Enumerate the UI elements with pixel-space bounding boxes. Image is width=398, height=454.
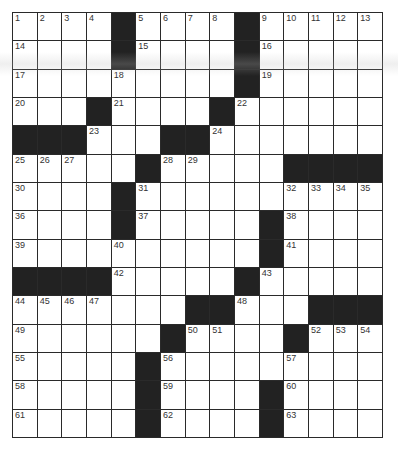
grid-cell[interactable] xyxy=(210,155,234,182)
grid-cell[interactable]: 5 xyxy=(136,13,160,40)
grid-cell[interactable] xyxy=(210,240,234,267)
grid-cell[interactable] xyxy=(186,410,210,437)
grid-cell[interactable] xyxy=(309,353,333,380)
grid-cell[interactable] xyxy=(210,268,234,295)
grid-cell[interactable]: 44 xyxy=(13,296,37,323)
grid-cell[interactable] xyxy=(62,381,86,408)
grid-cell[interactable]: 46 xyxy=(62,296,86,323)
grid-cell[interactable] xyxy=(186,70,210,97)
grid-cell[interactable] xyxy=(38,211,62,238)
grid-cell[interactable] xyxy=(210,353,234,380)
grid-cell[interactable] xyxy=(334,381,358,408)
grid-cell[interactable] xyxy=(334,211,358,238)
grid-cell[interactable] xyxy=(235,155,259,182)
grid-cell[interactable]: 20 xyxy=(13,98,37,125)
grid-cell[interactable]: 45 xyxy=(38,296,62,323)
grid-cell[interactable]: 59 xyxy=(161,381,185,408)
grid-cell[interactable] xyxy=(235,410,259,437)
grid-cell[interactable]: 23 xyxy=(87,126,111,153)
grid-cell[interactable] xyxy=(334,240,358,267)
grid-cell[interactable] xyxy=(186,381,210,408)
grid-cell[interactable]: 41 xyxy=(284,240,308,267)
grid-cell[interactable]: 34 xyxy=(334,183,358,210)
grid-cell[interactable]: 24 xyxy=(210,126,234,153)
grid-cell[interactable] xyxy=(38,325,62,352)
grid-cell[interactable]: 19 xyxy=(260,70,284,97)
grid-cell[interactable] xyxy=(235,126,259,153)
grid-cell[interactable] xyxy=(260,183,284,210)
grid-cell[interactable]: 15 xyxy=(136,41,160,68)
grid-cell[interactable] xyxy=(112,325,136,352)
grid-cell[interactable] xyxy=(87,155,111,182)
grid-cell[interactable] xyxy=(210,70,234,97)
grid-cell[interactable] xyxy=(38,70,62,97)
grid-cell[interactable] xyxy=(260,98,284,125)
grid-cell[interactable] xyxy=(136,126,160,153)
grid-cell[interactable] xyxy=(284,296,308,323)
grid-cell[interactable] xyxy=(62,211,86,238)
grid-cell[interactable] xyxy=(260,126,284,153)
grid-cell[interactable] xyxy=(161,211,185,238)
grid-cell[interactable] xyxy=(87,211,111,238)
grid-cell[interactable] xyxy=(62,98,86,125)
grid-cell[interactable]: 48 xyxy=(235,296,259,323)
grid-cell[interactable] xyxy=(87,240,111,267)
grid-cell[interactable] xyxy=(186,41,210,68)
grid-cell[interactable] xyxy=(136,240,160,267)
grid-cell[interactable] xyxy=(161,296,185,323)
grid-cell[interactable] xyxy=(38,41,62,68)
grid-cell[interactable] xyxy=(161,268,185,295)
grid-cell[interactable] xyxy=(62,410,86,437)
grid-cell[interactable] xyxy=(284,268,308,295)
grid-cell[interactable] xyxy=(210,211,234,238)
grid-cell[interactable] xyxy=(358,381,382,408)
grid-cell[interactable] xyxy=(309,410,333,437)
grid-cell[interactable] xyxy=(334,126,358,153)
grid-cell[interactable]: 52 xyxy=(309,325,333,352)
grid-cell[interactable]: 63 xyxy=(284,410,308,437)
grid-cell[interactable]: 37 xyxy=(136,211,160,238)
grid-cell[interactable]: 58 xyxy=(13,381,37,408)
grid-cell[interactable]: 62 xyxy=(161,410,185,437)
grid-cell[interactable] xyxy=(186,353,210,380)
grid-cell[interactable] xyxy=(62,353,86,380)
grid-cell[interactable]: 3 xyxy=(62,13,86,40)
grid-cell[interactable] xyxy=(136,268,160,295)
grid-cell[interactable] xyxy=(309,70,333,97)
grid-cell[interactable]: 22 xyxy=(235,98,259,125)
grid-cell[interactable] xyxy=(38,381,62,408)
grid-cell[interactable] xyxy=(334,410,358,437)
grid-cell[interactable]: 33 xyxy=(309,183,333,210)
grid-cell[interactable] xyxy=(235,381,259,408)
grid-cell[interactable] xyxy=(38,353,62,380)
grid-cell[interactable] xyxy=(136,98,160,125)
grid-cell[interactable] xyxy=(112,126,136,153)
grid-cell[interactable] xyxy=(38,183,62,210)
grid-cell[interactable] xyxy=(235,211,259,238)
grid-cell[interactable] xyxy=(358,268,382,295)
grid-cell[interactable]: 32 xyxy=(284,183,308,210)
grid-cell[interactable] xyxy=(309,41,333,68)
grid-cell[interactable]: 6 xyxy=(161,13,185,40)
grid-cell[interactable] xyxy=(38,410,62,437)
grid-cell[interactable]: 26 xyxy=(38,155,62,182)
grid-cell[interactable]: 12 xyxy=(334,13,358,40)
grid-cell[interactable] xyxy=(210,183,234,210)
grid-cell[interactable] xyxy=(62,325,86,352)
grid-cell[interactable]: 56 xyxy=(161,353,185,380)
grid-cell[interactable] xyxy=(62,240,86,267)
grid-cell[interactable] xyxy=(358,41,382,68)
grid-cell[interactable] xyxy=(87,353,111,380)
grid-cell[interactable]: 35 xyxy=(358,183,382,210)
grid-cell[interactable] xyxy=(161,98,185,125)
grid-cell[interactable]: 30 xyxy=(13,183,37,210)
grid-cell[interactable] xyxy=(284,70,308,97)
grid-cell[interactable] xyxy=(260,296,284,323)
grid-cell[interactable] xyxy=(235,325,259,352)
grid-cell[interactable] xyxy=(235,183,259,210)
grid-cell[interactable] xyxy=(62,41,86,68)
grid-cell[interactable] xyxy=(309,126,333,153)
grid-cell[interactable]: 21 xyxy=(112,98,136,125)
grid-cell[interactable] xyxy=(235,240,259,267)
grid-cell[interactable] xyxy=(161,240,185,267)
